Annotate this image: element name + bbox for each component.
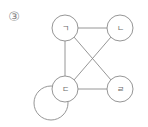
node-g: ㄱ (52, 15, 78, 41)
node-label: ㄹ (117, 85, 124, 94)
node-label: ㄷ (62, 85, 69, 94)
graph-diagram: ③ ㄱ ㄴ ㄷ ㄹ (0, 0, 148, 127)
node-label: ㄱ (62, 24, 69, 33)
node-label: ㄴ (117, 24, 124, 33)
figure-number-label: ③ (8, 9, 20, 24)
node-d: ㄷ (52, 76, 78, 102)
node-n: ㄴ (107, 15, 133, 41)
node-r: ㄹ (107, 76, 133, 102)
